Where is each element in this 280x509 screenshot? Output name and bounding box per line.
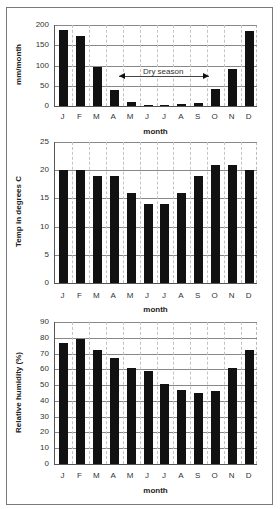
- bar-O: [211, 165, 220, 283]
- x-tick-label: S: [190, 112, 206, 121]
- bar-M: [93, 176, 102, 283]
- bar-S: [194, 103, 203, 106]
- y-tick-label: 20: [23, 427, 49, 436]
- dry-season-arrow: [119, 76, 209, 77]
- y-axis-label: Temp in degrees C: [14, 152, 23, 272]
- x-tick-label: A: [105, 112, 121, 121]
- plot-area: [54, 322, 257, 465]
- arrowhead-left-icon: [119, 73, 125, 79]
- x-tick-label: N: [224, 112, 240, 121]
- x-axis-label: month: [54, 486, 257, 495]
- bar-J: [144, 105, 153, 106]
- bar-A: [110, 358, 119, 464]
- x-tick-label: J: [54, 291, 70, 300]
- y-tick-label: 0: [23, 278, 49, 287]
- x-tick-label: J: [139, 471, 155, 480]
- gridline-vertical: [89, 142, 90, 283]
- gridline-vertical: [72, 322, 73, 464]
- x-tick-label: M: [88, 112, 104, 121]
- bar-A: [110, 90, 119, 106]
- gridline-vertical: [157, 25, 158, 106]
- x-tick-label: J: [156, 112, 172, 121]
- bar-M: [127, 102, 136, 106]
- x-tick-label: M: [88, 471, 104, 480]
- x-tick-label: A: [173, 291, 189, 300]
- gridline-vertical: [106, 142, 107, 283]
- x-tick-label: F: [71, 471, 87, 480]
- x-tick-label: N: [224, 291, 240, 300]
- bar-S: [194, 176, 203, 283]
- gridline-vertical: [207, 322, 208, 464]
- x-tick-label: D: [241, 112, 257, 121]
- x-tick-label: O: [207, 291, 223, 300]
- y-tick-label: 30: [23, 412, 49, 421]
- bar-J: [59, 343, 68, 464]
- bar-O: [211, 391, 220, 464]
- gridline-vertical: [140, 322, 141, 464]
- x-tick-label: J: [139, 112, 155, 121]
- bar-O: [211, 89, 220, 106]
- y-axis-label: mm/month: [14, 5, 23, 125]
- x-axis-label: month: [54, 305, 257, 314]
- gridline-vertical: [224, 142, 225, 283]
- bar-D: [245, 170, 254, 283]
- y-tick-label: 0: [23, 101, 49, 110]
- y-tick-label: 50: [23, 81, 49, 90]
- bar-D: [245, 31, 254, 106]
- y-tick-label: 150: [23, 40, 49, 49]
- bar-J: [59, 30, 68, 106]
- y-tick-label: 50: [23, 380, 49, 389]
- bar-F: [76, 339, 85, 464]
- y-tick-label: 10: [23, 443, 49, 452]
- gridline-vertical: [157, 142, 158, 283]
- y-tick-label: 20: [23, 165, 49, 174]
- x-tick-label: M: [122, 112, 138, 121]
- x-tick-label: F: [71, 291, 87, 300]
- x-tick-label: J: [54, 112, 70, 121]
- dry-season-label: Dry season: [142, 67, 184, 76]
- y-tick-label: 70: [23, 349, 49, 358]
- bar-J: [144, 204, 153, 283]
- y-tick-label: 90: [23, 317, 49, 326]
- y-tick-label: 25: [23, 137, 49, 146]
- bar-N: [228, 165, 237, 283]
- gridline-vertical: [241, 25, 242, 106]
- bar-J: [160, 105, 169, 106]
- x-tick-label: J: [156, 291, 172, 300]
- bar-A: [177, 193, 186, 283]
- bar-N: [228, 69, 237, 106]
- bar-M: [93, 350, 102, 464]
- gridline-vertical: [207, 142, 208, 283]
- x-tick-label: O: [207, 471, 223, 480]
- gridline-vertical: [190, 322, 191, 464]
- bar-S: [194, 393, 203, 464]
- x-tick-label: J: [139, 291, 155, 300]
- gridline-vertical: [224, 25, 225, 106]
- gridline-vertical: [89, 25, 90, 106]
- gridline-vertical: [89, 322, 90, 464]
- gridline-vertical: [190, 25, 191, 106]
- x-tick-label: J: [54, 471, 70, 480]
- x-tick-label: D: [241, 471, 257, 480]
- gridline-vertical: [140, 25, 141, 106]
- bar-F: [76, 36, 85, 106]
- y-tick-label: 5: [23, 250, 49, 259]
- x-tick-label: A: [105, 291, 121, 300]
- y-axis-label: Relative humidity (%): [14, 333, 23, 453]
- gridline-vertical: [140, 142, 141, 283]
- bar-N: [228, 368, 237, 464]
- bar-J: [160, 204, 169, 283]
- x-tick-label: A: [105, 471, 121, 480]
- y-tick-label: 60: [23, 364, 49, 373]
- gridline-vertical: [106, 322, 107, 464]
- x-tick-label: S: [190, 291, 206, 300]
- gridline-vertical: [241, 142, 242, 283]
- gridline-vertical: [123, 25, 124, 106]
- bar-A: [110, 176, 119, 283]
- gridline-vertical: [190, 142, 191, 283]
- y-tick-label: 15: [23, 193, 49, 202]
- bar-J: [59, 170, 68, 283]
- gridline-vertical: [173, 25, 174, 106]
- y-tick-label: 0: [23, 459, 49, 468]
- y-tick-label: 80: [23, 333, 49, 342]
